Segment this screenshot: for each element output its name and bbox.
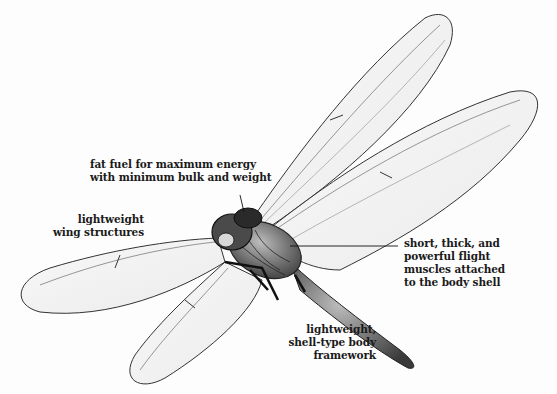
label-flight-muscles: short, thick, and powerful flight muscle… (404, 237, 524, 289)
label-line: framework (276, 349, 376, 362)
label-line: fat fuel for maximum energy (90, 158, 246, 171)
label-line: powerful flight (404, 250, 524, 263)
label-line: lightweight (40, 213, 144, 226)
label-line: lightweight, (276, 323, 376, 336)
label-line: muscles attached (404, 263, 524, 276)
label-wing-structures: lightweight wing structures (40, 213, 144, 239)
label-line: shell-type body (276, 336, 376, 349)
label-fat-fuel: fat fuel for maximum energy with minimum… (90, 158, 246, 184)
label-line: wing structures (40, 226, 144, 239)
label-body-framework: lightweight, shell-type body framework (276, 323, 376, 362)
dragonfly-diagram: fat fuel for maximum energy with minimum… (0, 0, 557, 394)
label-line: short, thick, and (404, 237, 524, 250)
label-line: with minimum bulk and weight (90, 171, 246, 184)
label-line: to the body shell (404, 276, 524, 289)
